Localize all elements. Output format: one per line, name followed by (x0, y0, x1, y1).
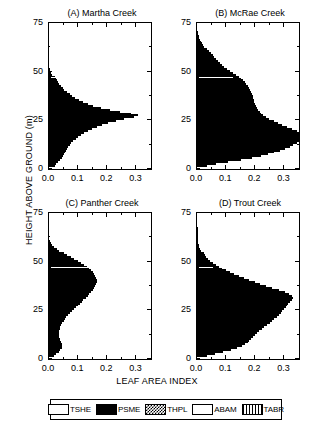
profile-bar-row (49, 99, 78, 101)
profile-bar-segment-psme (51, 268, 89, 270)
profile-bar-segment-psme (199, 138, 215, 140)
profile-bar-segment-psme (51, 103, 87, 105)
profile-bar-segment-psme (199, 79, 236, 81)
profile-bar-row (49, 163, 56, 165)
y-minor-tick (196, 285, 198, 286)
profile-bar-segment-tabr (236, 99, 254, 101)
profile-bar-segment-tabr (221, 334, 255, 336)
profile-bar-segment-psme (51, 258, 74, 260)
profile-bar-segment-psme (199, 264, 211, 266)
profile-bar-row (49, 260, 78, 262)
profile-bar-row (197, 70, 230, 72)
profile-bar-row (49, 240, 50, 242)
profile-bar-segment-psme (51, 314, 66, 316)
x-minor-tick-top (240, 213, 241, 215)
profile-bar-segment-psme (199, 279, 228, 281)
profile-bar-segment-tabr (221, 271, 230, 273)
profile-bar-segment-psme (51, 326, 58, 328)
profile-bar-segment-tabr (243, 287, 273, 289)
profile-bar-segment-abam (205, 343, 218, 345)
profile-bar-segment-psme (51, 254, 67, 256)
profile-bar-row (197, 244, 199, 246)
profile-bar-segment-psme (199, 273, 221, 275)
profile-bar-row (197, 48, 207, 50)
profile-bar-segment-abam (210, 326, 226, 328)
y-minor-tick (196, 144, 198, 145)
profile-bar-segment-tabr (224, 120, 274, 122)
y-minor-tick-right (297, 95, 299, 96)
profile-bar-segment-psme (52, 153, 61, 155)
profile-bar-segment-tabr (58, 330, 59, 332)
profile-bar-segment-psme (199, 266, 213, 268)
profile-bar-segment-psme (51, 285, 94, 287)
profile-bar-row (49, 109, 109, 111)
x-tick-label: 0.2 (100, 174, 113, 183)
profile-bar-row (197, 103, 255, 105)
profile-bar-row (197, 72, 233, 74)
profile-bar-segment-psme (199, 93, 236, 95)
profile-bar-segment-tabr (219, 343, 246, 345)
profile-bar-segment-tabr (234, 308, 284, 310)
profile-bar-segment-tabr (245, 289, 279, 291)
profile-bar-row (197, 287, 272, 289)
profile-bar-segment-psme (199, 277, 226, 279)
profile-bar-segment-tabr (64, 151, 65, 153)
profile-bar-segment-psme (49, 242, 51, 244)
profile-bar-row (197, 76, 239, 78)
y-tick-label: 75 (33, 208, 43, 217)
profile-bar-segment-psme (52, 155, 60, 157)
profile-bar-row (49, 275, 95, 277)
y-tick-label: 0 (38, 354, 43, 363)
profile-bar-row (197, 120, 274, 122)
profile-bar-segment-tabr (233, 103, 255, 105)
profile-bar-segment-psme (197, 41, 201, 43)
x-minor-tick (240, 167, 241, 169)
y-major-tick (196, 309, 200, 310)
profile-bar-segment-abam (208, 153, 218, 155)
profile-bar-segment-psme (199, 60, 216, 62)
profile-bar-segment-psme (199, 324, 210, 326)
profile-bar-segment-psme (199, 105, 228, 107)
profile-bar-segment-abam (223, 308, 235, 310)
profile-bar-segment-psme (51, 308, 72, 310)
profile-bar-segment-tabr (238, 95, 253, 97)
profile-bar-row (197, 264, 216, 266)
profile-bar-segment-psme (51, 114, 136, 116)
legend-swatch-tshe-icon (48, 404, 69, 415)
profile-bar-segment-tabr (233, 310, 282, 312)
profile-bar-segment-psme (199, 281, 230, 283)
profile-bar-segment-tabr (231, 314, 278, 316)
profile-bar-row (197, 343, 245, 345)
profile-bar-segment-psme (199, 74, 232, 76)
x-tick-label: 0.1 (219, 174, 232, 183)
profile-bar-segment-abam (220, 130, 227, 132)
profile-bar-segment-tabr (225, 138, 299, 140)
profile-bar-segment-abam (217, 316, 231, 318)
profile-bar-row (49, 124, 101, 126)
y-minor-tick-right (149, 95, 151, 96)
y-minor-tick (48, 46, 50, 47)
x-major-tick-top (77, 23, 78, 27)
profile-bar-segment-tabr (240, 85, 248, 87)
figure-leaf-area-index-profiles: HEIGHT ABOVE GROUND (m) LEAF AREA INDEX … (0, 0, 314, 437)
profile-bar-row (49, 118, 124, 120)
x-major-tick (135, 165, 136, 169)
profile-bar-row (49, 111, 119, 113)
profile-bar-segment-psme (51, 116, 133, 118)
profile-bar-row (197, 248, 200, 250)
profile-bar-row (49, 330, 59, 332)
profile-bar-row (197, 35, 199, 37)
profile-bar-row (49, 85, 61, 87)
panel-d-plot-area (197, 213, 299, 359)
profile-bar-segment-tabr (61, 157, 62, 159)
profile-bar-row (197, 91, 251, 93)
profile-bar-row (197, 281, 255, 283)
profile-bar-row (49, 318, 64, 320)
profile-bar-segment-tabr (58, 338, 60, 340)
profile-bar-segment-abam (205, 345, 217, 347)
profile-bar-segment-tabr (229, 109, 258, 111)
profile-bar-segment-psme (199, 308, 222, 310)
profile-bar-segment-psme (199, 58, 215, 60)
profile-bar-row (49, 279, 96, 281)
profile-bar-row (49, 306, 75, 308)
